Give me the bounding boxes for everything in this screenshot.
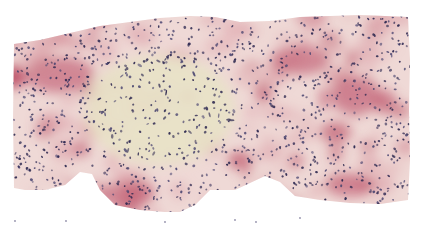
debris-speck (234, 219, 236, 221)
debris-speck (65, 220, 67, 222)
debris-speck (14, 220, 16, 222)
debris-speck (164, 221, 166, 223)
debris-speck (299, 217, 301, 219)
histology-slide (0, 0, 422, 237)
fibrotic-stroma (85, 55, 235, 165)
red-focus-5 (325, 173, 375, 197)
red-focus-1 (25, 57, 95, 93)
debris-speck (255, 221, 257, 223)
